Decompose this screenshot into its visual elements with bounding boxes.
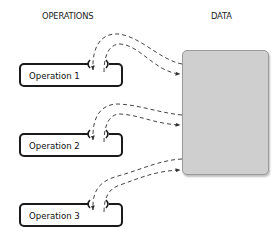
port-gap bbox=[89, 62, 109, 68]
operation-label: Operation 2 bbox=[29, 140, 80, 151]
operations-column-header: OPERATIONS bbox=[42, 10, 93, 21]
operation-label: Operation 3 bbox=[29, 210, 80, 221]
data-column-header: DATA bbox=[211, 10, 232, 21]
operation-box-3: Operation 3 bbox=[19, 203, 123, 227]
port-gap bbox=[89, 202, 109, 208]
operation-box-2: Operation 2 bbox=[19, 133, 123, 157]
data-store-box bbox=[182, 50, 269, 175]
port-gap bbox=[89, 132, 109, 138]
operation-box-1: Operation 1 bbox=[19, 63, 123, 87]
operation-label: Operation 1 bbox=[29, 70, 80, 81]
